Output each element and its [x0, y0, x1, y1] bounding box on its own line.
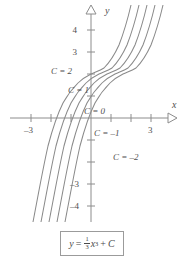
x-axis-arrowhead: [168, 113, 177, 123]
formula-fraction: 1 3: [84, 236, 89, 251]
y-ticklabel-neg4: –4: [69, 201, 80, 211]
slope-field-plot: y x –3 3 4 3 –3 –4 C = 2 C = 1 C = 0 C =…: [0, 0, 184, 230]
curve-label-c-neg1: C = –1: [94, 128, 120, 138]
formula-equals: =: [76, 239, 82, 249]
figure-container: y x –3 3 4 3 –3 –4 C = 2 C = 1 C = 0 C =…: [0, 0, 184, 267]
x-ticklabel-pos3: 3: [148, 125, 153, 135]
formula-numerator: 1: [84, 236, 89, 243]
y-axis-arrowhead: [86, 5, 96, 14]
x-axis-label: x: [171, 99, 177, 110]
x-ticklabel-neg3: –3: [23, 125, 34, 135]
curve-label-c-0: C = 0: [84, 106, 106, 116]
curve-c-neg2: [65, 5, 163, 222]
formula-box: y = 1 3 x3 + C: [60, 231, 124, 256]
curve-label-c-2: C = 2: [51, 66, 73, 76]
y-axis-label: y: [104, 5, 110, 16]
formula-expression: y = 1 3 x3 + C: [69, 236, 114, 251]
curve-label-c-1: C = 1: [68, 85, 89, 95]
formula-lhs: y: [69, 239, 73, 249]
curve-label-c-neg2: C = –2: [113, 152, 139, 162]
formula-denominator: 3: [84, 244, 89, 251]
y-ticklabel-neg3: –3: [69, 179, 80, 189]
y-ticklabel-pos3: 3: [73, 47, 78, 57]
formula-plus: +: [100, 239, 106, 249]
formula-constant: C: [108, 239, 115, 249]
y-ticklabel-pos4: 4: [73, 25, 78, 35]
